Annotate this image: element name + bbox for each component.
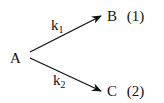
product-c: C (2) xyxy=(107,84,144,99)
product-b: B (1) xyxy=(107,9,144,24)
product-b-tag: (1) xyxy=(127,8,145,24)
product-c-tag: (2) xyxy=(127,83,145,99)
arrow-a-to-c xyxy=(30,58,101,91)
rate-constant-k2: k2 xyxy=(53,73,66,90)
arrow-a-to-b xyxy=(30,16,101,52)
k1-subscript: 1 xyxy=(59,24,64,35)
k1-symbol: k xyxy=(51,17,59,33)
k2-symbol: k xyxy=(53,72,61,88)
product-b-label: B xyxy=(107,8,117,24)
reactant-a: A xyxy=(10,51,21,66)
rate-constant-k1: k1 xyxy=(51,18,64,35)
k2-subscript: 2 xyxy=(61,79,66,90)
product-c-label: C xyxy=(107,83,117,99)
